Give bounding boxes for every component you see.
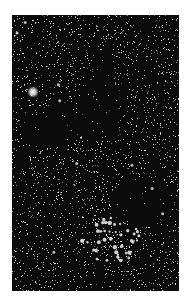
star-field-image [12, 15, 179, 291]
sky-canvas [12, 15, 179, 291]
